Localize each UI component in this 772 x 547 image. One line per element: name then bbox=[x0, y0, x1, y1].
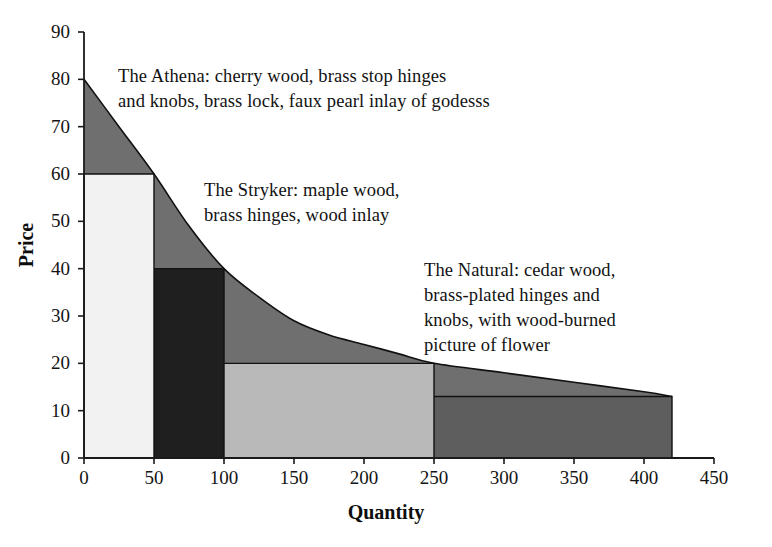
segment-rect-tail bbox=[434, 396, 672, 458]
x-tick-label: 400 bbox=[630, 467, 659, 488]
y-tick-label: 30 bbox=[51, 305, 70, 326]
x-tick-label: 200 bbox=[350, 467, 379, 488]
y-tick-label: 90 bbox=[51, 21, 70, 42]
y-axis-title: Price bbox=[15, 223, 37, 268]
x-tick-label: 150 bbox=[280, 467, 309, 488]
x-tick-label: 300 bbox=[490, 467, 519, 488]
y-tick-label: 10 bbox=[51, 400, 70, 421]
annotation-natural: The Natural: cedar wood, brass-plated hi… bbox=[424, 258, 616, 358]
y-tick-label: 0 bbox=[61, 447, 71, 468]
annotation-athena: The Athena: cherry wood, brass stop hing… bbox=[118, 64, 490, 114]
x-tick-label: 450 bbox=[700, 467, 729, 488]
y-tick-label: 50 bbox=[51, 210, 70, 231]
y-tick-label: 80 bbox=[51, 68, 70, 89]
x-axis-title: Quantity bbox=[348, 501, 425, 524]
segment-rect-natural bbox=[224, 363, 434, 458]
y-tick-label: 60 bbox=[51, 163, 70, 184]
x-tick-label: 350 bbox=[560, 467, 589, 488]
x-tick-label: 100 bbox=[210, 467, 239, 488]
y-tick-label: 20 bbox=[51, 352, 70, 373]
y-tick-label: 70 bbox=[51, 116, 70, 137]
annotation-stryker: The Stryker: maple wood, brass hinges, w… bbox=[204, 178, 400, 228]
x-tick-label: 50 bbox=[145, 467, 164, 488]
x-tick-label: 0 bbox=[79, 467, 89, 488]
segment-rect-athena bbox=[84, 174, 154, 458]
y-tick-label: 40 bbox=[51, 258, 70, 279]
x-tick-label: 250 bbox=[420, 467, 449, 488]
segment-rect-stryker bbox=[154, 269, 224, 458]
demand-curve-figure: 0102030405060708090 05010015020025030035… bbox=[0, 0, 772, 547]
